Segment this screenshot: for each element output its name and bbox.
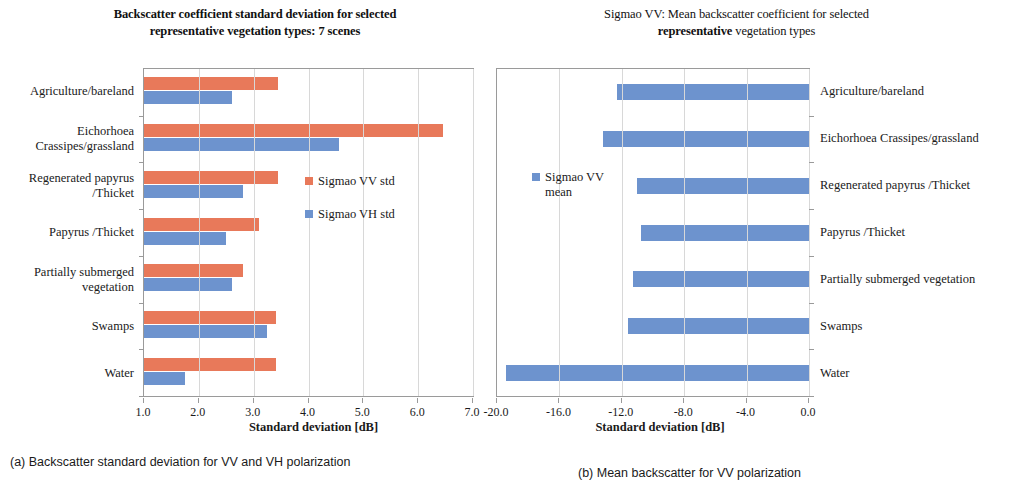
- bar-row: [497, 209, 809, 256]
- panel-b-bar-rows: [497, 69, 809, 396]
- bar-row: [497, 116, 809, 163]
- x-axis-tick-label: 1.0: [136, 405, 151, 420]
- bar-vh: [144, 325, 267, 338]
- legend-item[interactable]: Sigmao VV mean: [532, 170, 642, 200]
- bar-vh: [144, 185, 243, 198]
- panel-a-title-line2: representative vegetation types: 7 scene…: [150, 24, 361, 38]
- legend-swatch-icon: [305, 177, 313, 185]
- gridline: [254, 69, 255, 396]
- category-axis-tick: [139, 349, 144, 350]
- panel-b-plot-area: [496, 68, 810, 397]
- category-label: Regenerated papyrus /Thicket: [0, 162, 138, 209]
- category-axis-tick: [809, 162, 814, 163]
- bar-mean: [633, 271, 809, 287]
- legend-item[interactable]: Sigmao VV std: [305, 174, 395, 189]
- category-axis-tick: [139, 162, 144, 163]
- bar-row: [497, 69, 809, 116]
- x-axis-tick: [253, 398, 254, 403]
- x-axis-tick: [621, 398, 622, 403]
- x-axis-tick: [472, 398, 473, 403]
- category-axis-tick: [139, 303, 144, 304]
- x-axis-tick: [417, 398, 418, 403]
- panel-b-legend: Sigmao VV mean: [532, 170, 642, 200]
- bar-mean: [603, 131, 809, 147]
- legend-label: Sigmao VH std: [318, 207, 395, 222]
- gridline: [622, 69, 623, 396]
- bar-row: [497, 256, 809, 303]
- gridline: [809, 69, 810, 396]
- category-axis-tick: [809, 349, 814, 350]
- category-label: Water: [0, 350, 138, 397]
- bar-vh: [144, 372, 185, 385]
- panel-b-title: Sigmao VV: Mean backscatter coefficient …: [482, 6, 1021, 40]
- category-axis-tick: [809, 209, 814, 210]
- category-label: Swamps: [818, 303, 1021, 350]
- category-label: Eichorhoea Crassipes/grassland: [0, 115, 138, 162]
- panel-a-title: Backscatter coefficient standard deviati…: [0, 6, 500, 40]
- bar-vh: [144, 91, 232, 104]
- panel-b-category-labels: Agriculture/barelandEichorhoea Crassipes…: [818, 68, 1021, 397]
- bar-vv: [144, 311, 276, 324]
- bar-vv: [144, 358, 276, 371]
- x-axis-tick-label: 4.0: [300, 405, 315, 420]
- gridline: [559, 69, 560, 396]
- panel-b-title-line1: Sigmao VV: Mean backscatter coefficient …: [604, 7, 869, 21]
- bar-vv: [144, 77, 278, 90]
- bar-row: [497, 349, 809, 396]
- panel-b-x-axis-title: Standard deviation [dB]: [510, 420, 810, 435]
- x-axis-tick: [496, 398, 497, 403]
- x-axis-tick: [198, 398, 199, 403]
- bar-vv: [144, 218, 259, 231]
- panel-a-caption: (a) Backscatter standard deviation for V…: [10, 455, 350, 469]
- x-axis-tick-label: 5.0: [355, 405, 370, 420]
- x-axis-tick: [362, 398, 363, 403]
- legend-label: Sigmao VV std: [318, 174, 395, 189]
- category-axis-tick: [139, 209, 144, 210]
- panel-b-title-line2: representative vegetation types: [658, 24, 816, 38]
- panel-a-legend: Sigmao VV stdSigmao VH std: [305, 174, 395, 240]
- category-axis-tick: [809, 256, 814, 257]
- legend-item[interactable]: Sigmao VH std: [305, 207, 395, 222]
- category-label: Water: [818, 350, 1021, 397]
- category-axis-tick: [809, 116, 814, 117]
- bar-mean: [641, 225, 809, 241]
- x-axis-tick: [808, 398, 809, 403]
- bar-mean: [637, 178, 809, 194]
- legend-swatch-icon: [532, 173, 540, 181]
- bar-vh: [144, 278, 232, 291]
- category-label: Partially submerged vegetation: [0, 256, 138, 303]
- x-axis-tick: [308, 398, 309, 403]
- legend-swatch-icon: [305, 210, 313, 218]
- x-axis-tick: [143, 398, 144, 403]
- x-axis-tick: [746, 398, 747, 403]
- panel-b-title-line2-bold: representative: [658, 24, 733, 38]
- x-axis-tick-label: 7.0: [465, 405, 480, 420]
- panel-b-caption: (b) Mean backscatter for VV polarization: [578, 466, 801, 480]
- legend-label: Sigmao VV mean: [545, 170, 604, 200]
- panel-a-x-axis: Standard deviation [dB] 1.02.03.04.05.06…: [143, 398, 474, 432]
- category-label: Eichorhoea Crassipes/grassland: [818, 115, 1021, 162]
- category-axis-tick: [809, 396, 814, 397]
- bar-vh: [144, 232, 226, 245]
- x-axis-tick-label: -16.0: [546, 405, 571, 420]
- panel-b-title-line2-rest: vegetation types: [732, 24, 815, 38]
- bar-vv: [144, 171, 278, 184]
- category-label: Agriculture/bareland: [0, 68, 138, 115]
- category-label: Agriculture/bareland: [818, 68, 1021, 115]
- gridline: [199, 69, 200, 396]
- x-axis-tick-label: -20.0: [484, 405, 509, 420]
- x-axis-tick-label: 0.0: [801, 405, 816, 420]
- panel-a: Backscatter coefficient standard deviati…: [0, 0, 500, 490]
- figure-root: Backscatter coefficient standard deviati…: [0, 0, 1021, 490]
- bar-mean: [628, 318, 809, 334]
- category-axis-tick: [139, 116, 144, 117]
- bar-vv: [144, 264, 243, 277]
- panel-a-x-axis-title: Standard deviation [dB]: [153, 420, 474, 435]
- category-axis-tick: [809, 303, 814, 304]
- x-axis-tick-label: 2.0: [190, 405, 205, 420]
- bar-vv: [144, 124, 443, 137]
- panel-b-x-axis: Standard deviation [dB] -20.0-16.0-12.0-…: [496, 398, 810, 432]
- x-axis-tick-label: -4.0: [736, 405, 755, 420]
- x-axis-tick: [558, 398, 559, 403]
- panel-a-title-line1: Backscatter coefficient standard deviati…: [114, 7, 397, 21]
